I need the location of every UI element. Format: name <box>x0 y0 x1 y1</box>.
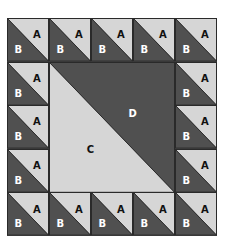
label-c: C <box>87 145 94 155</box>
label-a: A <box>75 30 83 40</box>
half-square-triangle-icon <box>7 62 49 106</box>
half-square-triangle-icon <box>7 18 49 62</box>
half-square-triangle-icon <box>49 192 91 236</box>
border-unit: AB <box>7 149 49 193</box>
border-unit: AB <box>49 192 91 236</box>
label-a: A <box>117 30 125 40</box>
half-square-triangle-icon <box>91 192 133 236</box>
label-b: B <box>99 219 107 229</box>
label-b: B <box>183 132 191 142</box>
label-b: B <box>57 219 65 229</box>
border-unit: AB <box>175 62 217 106</box>
label-b: B <box>15 45 23 55</box>
border-unit: AB <box>91 192 133 236</box>
label-b: B <box>141 45 149 55</box>
quilt-diagram: ABABABABABABABABABABABABABABABABCD <box>7 18 217 236</box>
border-unit: AB <box>7 18 49 62</box>
center-square: CD <box>49 62 175 193</box>
label-a: A <box>117 205 125 215</box>
border-unit: AB <box>7 192 49 236</box>
half-square-triangle-icon <box>175 62 217 106</box>
label-a: A <box>33 205 41 215</box>
half-square-triangle-icon <box>175 192 217 236</box>
label-a: A <box>33 30 41 40</box>
half-square-triangle-icon <box>49 18 91 62</box>
label-a: A <box>201 30 209 40</box>
label-a: A <box>159 205 167 215</box>
label-a: A <box>201 74 209 84</box>
half-square-triangle-icon <box>175 105 217 149</box>
border-unit: AB <box>175 18 217 62</box>
border-unit: AB <box>49 18 91 62</box>
border-unit: AB <box>133 18 175 62</box>
label-b: B <box>15 132 23 142</box>
label-b: B <box>183 89 191 99</box>
label-b: B <box>99 45 107 55</box>
large-triangle-icon <box>49 62 175 193</box>
half-square-triangle-icon <box>175 149 217 193</box>
half-square-triangle-icon <box>7 192 49 236</box>
label-b: B <box>183 176 191 186</box>
label-b: B <box>15 89 23 99</box>
border-unit: AB <box>7 105 49 149</box>
label-b: B <box>15 176 23 186</box>
label-a: A <box>201 117 209 127</box>
half-square-triangle-icon <box>133 18 175 62</box>
label-a: A <box>75 205 83 215</box>
half-square-triangle-icon <box>7 105 49 149</box>
label-b: B <box>183 45 191 55</box>
half-square-triangle-icon <box>91 18 133 62</box>
label-b: B <box>183 219 191 229</box>
label-a: A <box>201 161 209 171</box>
border-unit: AB <box>175 149 217 193</box>
half-square-triangle-icon <box>133 192 175 236</box>
half-square-triangle-icon <box>7 149 49 193</box>
label-b: B <box>141 219 149 229</box>
label-a: A <box>159 30 167 40</box>
label-a: A <box>33 117 41 127</box>
label-a: A <box>33 74 41 84</box>
half-square-triangle-icon <box>175 18 217 62</box>
border-unit: AB <box>91 18 133 62</box>
border-unit: AB <box>175 192 217 236</box>
label-a: A <box>201 205 209 215</box>
label-a: A <box>33 161 41 171</box>
border-unit: AB <box>7 62 49 106</box>
label-d: D <box>128 109 136 119</box>
label-b: B <box>15 219 23 229</box>
label-b: B <box>57 45 65 55</box>
border-unit: AB <box>175 105 217 149</box>
border-unit: AB <box>133 192 175 236</box>
